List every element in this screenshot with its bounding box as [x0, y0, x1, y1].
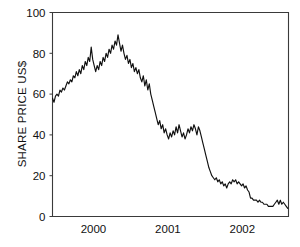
y-axis-tick-label: 60	[33, 88, 46, 100]
y-axis-tick-label: 0	[39, 211, 45, 223]
y-axis-tick-label: 100	[26, 7, 45, 19]
y-axis-tick-label: 20	[33, 170, 46, 182]
x-axis-tick-label: 2001	[155, 223, 181, 235]
y-axis-title: SHARE PRICE US$	[16, 60, 28, 167]
y-axis-tick-label: 80	[33, 48, 46, 60]
x-axis-tick-label: 2002	[230, 223, 256, 235]
y-axis-tick-label: 40	[33, 129, 46, 141]
chart-figure: 020406080100 200020012002 SHARE PRICE US…	[0, 0, 300, 247]
x-axis-tick-label: 2000	[81, 223, 107, 235]
share-price-line-chart: 020406080100 200020012002 SHARE PRICE US…	[0, 0, 300, 247]
